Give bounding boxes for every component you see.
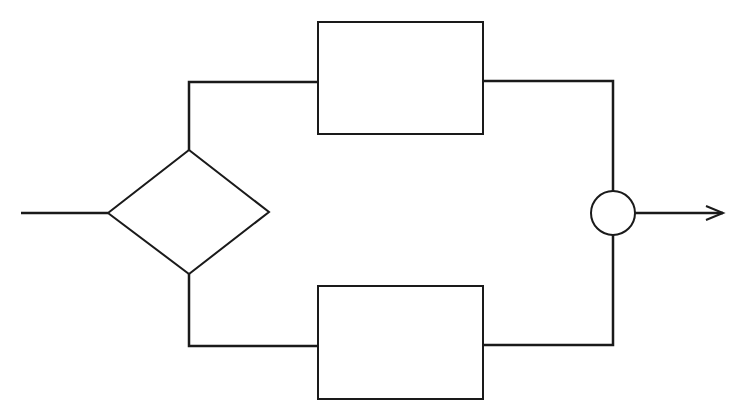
upper-branch-connector [189, 82, 318, 150]
top-merge-connector [483, 81, 613, 191]
lower-branch-connector [189, 274, 318, 346]
flowchart-diagram [0, 0, 737, 412]
top-process-box [318, 22, 483, 134]
junction-circle [591, 191, 635, 235]
decision-diamond [108, 150, 269, 274]
bottom-process-box [318, 286, 483, 399]
bottom-merge-connector [483, 235, 613, 345]
